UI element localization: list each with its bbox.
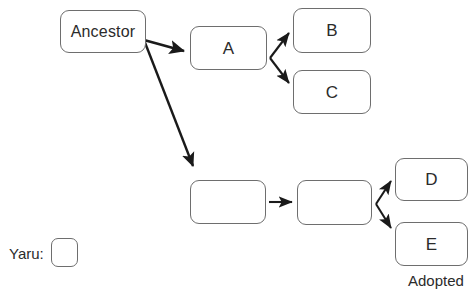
- yaru-legend-swatch[interactable]: [51, 238, 78, 267]
- node-b-label: B: [326, 22, 338, 39]
- node-parent-2-empty[interactable]: [297, 180, 372, 225]
- node-c-label: C: [326, 84, 338, 101]
- node-a-label: A: [223, 40, 235, 57]
- node-e-label: E: [426, 236, 438, 253]
- node-ancestor[interactable]: Ancestor: [60, 10, 146, 53]
- edge-a-to-b: [270, 33, 289, 58]
- adopted-annotation: Adopted: [408, 273, 464, 288]
- edge-ancestor-to-a: [144, 40, 184, 51]
- node-e[interactable]: E: [395, 222, 468, 266]
- node-d-label: D: [425, 171, 437, 188]
- node-b[interactable]: B: [293, 8, 371, 53]
- node-d[interactable]: D: [395, 158, 468, 201]
- node-ancestor-label: Ancestor: [71, 24, 136, 40]
- edge-ancestor-to-parent1: [144, 40, 193, 166]
- edge-parent2-to-e: [376, 204, 391, 228]
- pedigree-diagram-canvas: Ancestor A B C D E Adopted Yaru:: [0, 0, 476, 297]
- edge-parent2-to-d: [376, 181, 391, 204]
- node-parent-1-empty[interactable]: [190, 180, 266, 224]
- node-c[interactable]: C: [293, 70, 371, 114]
- node-a[interactable]: A: [190, 26, 267, 70]
- edge-a-to-c: [270, 58, 289, 83]
- yaru-legend-label: Yaru:: [9, 246, 44, 261]
